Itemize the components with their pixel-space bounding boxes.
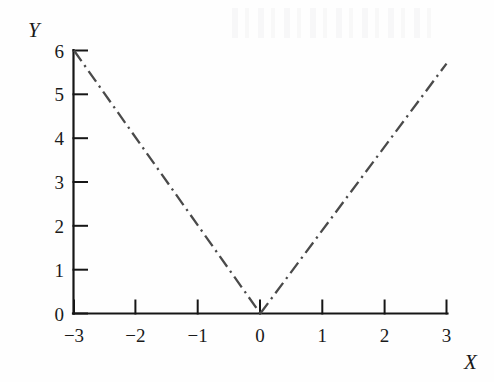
x-tick-label-3: 3 xyxy=(442,326,452,345)
y-tick-label-5: 5 xyxy=(55,85,65,104)
chart-figure: 0 1 2 3 4 5 6 −3 −2 −1 0 1 2 3 Y X xyxy=(0,0,494,382)
data-series-absolute-value xyxy=(74,51,447,314)
x-axis-title: X xyxy=(464,352,477,373)
x-tick-label-neg2: −2 xyxy=(125,326,145,345)
series-line-right-branch xyxy=(260,64,446,314)
y-tick-label-1: 1 xyxy=(55,260,65,279)
x-tick-label-neg1: −1 xyxy=(188,326,208,345)
x-tick-label-0: 0 xyxy=(255,326,265,345)
x-tick-label-neg3: −3 xyxy=(64,326,84,345)
y-tick-label-3: 3 xyxy=(55,173,65,192)
y-tick-label-2: 2 xyxy=(55,216,65,235)
x-tick-label-2: 2 xyxy=(380,326,390,345)
series-line-left-branch xyxy=(74,51,260,314)
y-tick-label-4: 4 xyxy=(55,129,65,148)
y-axis-ticks xyxy=(74,51,88,314)
y-tick-label-6: 6 xyxy=(55,41,65,60)
y-tick-label-0: 0 xyxy=(55,304,65,323)
y-axis-title: Y xyxy=(28,20,40,41)
x-tick-label-1: 1 xyxy=(318,326,328,345)
